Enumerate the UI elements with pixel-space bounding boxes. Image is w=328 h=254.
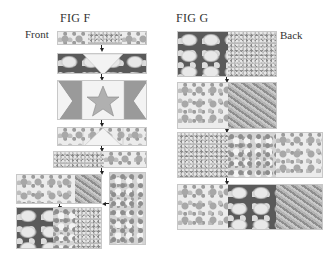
fig-f-top-strip: [57, 31, 147, 45]
fig-f-flying-geese-top: [57, 53, 147, 74]
fig-f-bottom-row: [16, 207, 102, 249]
fig-f-ditsy-strip: [53, 151, 147, 168]
back-label: Back: [280, 29, 303, 41]
fig-f-title: FIG F: [60, 11, 91, 26]
fig-g-title: FIG G: [176, 11, 209, 26]
fig-g-row-2: [177, 82, 277, 129]
arrow-down-icon: [100, 48, 104, 52]
fig-f-floral-leaf-row: [16, 174, 102, 204]
fig-g-row-1: [177, 31, 277, 77]
front-label: Front: [25, 28, 49, 40]
fig-g-row-4: [177, 184, 323, 230]
fig-g-row-3: [177, 132, 323, 178]
fig-f-side-panel: [109, 172, 146, 245]
arrow-left-icon: [102, 202, 106, 206]
fig-f-star-block: [57, 80, 147, 120]
fig-f-flying-geese-bottom: [57, 127, 147, 146]
